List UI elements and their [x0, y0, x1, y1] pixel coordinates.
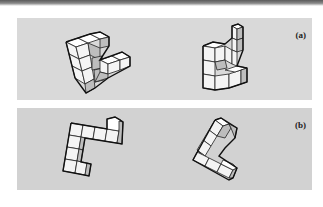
- block-figure-b-right: [195, 118, 265, 188]
- block-figure-a-right: [195, 24, 265, 106]
- panel-b-label: (b): [295, 120, 306, 130]
- block-figure-a-left: [62, 32, 142, 102]
- panel-a-label: (a): [296, 30, 307, 40]
- panel-b: (b): [17, 108, 312, 190]
- block-figure-b-left: [63, 113, 143, 183]
- top-border-strip: [0, 0, 323, 6]
- panel-a: (a): [17, 18, 312, 100]
